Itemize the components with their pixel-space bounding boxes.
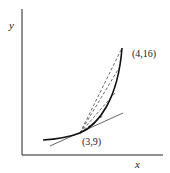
point-label-3-9: (3,9) <box>82 136 101 148</box>
secant-tangent-diagram: y x (3,9) (4,16) <box>0 0 170 173</box>
parabola-curve <box>43 48 122 140</box>
x-axis-label: x <box>134 158 140 170</box>
point-label-4-16: (4,16) <box>132 48 156 60</box>
secant-lines <box>80 48 122 133</box>
y-axis-label: y <box>8 19 14 31</box>
